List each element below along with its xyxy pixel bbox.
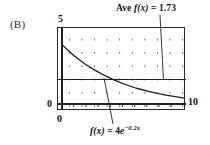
x-axis-origin-label: 0 xyxy=(57,113,62,124)
function-equals-sign: = xyxy=(105,126,115,136)
y-axis-max-label: 5 xyxy=(58,13,63,24)
exponential-decay-curve xyxy=(58,28,186,111)
x-axis-max-label: 10 xyxy=(188,96,198,107)
average-prefix-text: Ave xyxy=(116,3,134,13)
average-function-symbol: f(x) xyxy=(134,3,149,13)
average-value-annotation: Ave f(x) = 1.73 xyxy=(116,3,176,13)
panel-label: (B) xyxy=(10,18,25,30)
function-symbol: f(x) xyxy=(90,126,105,136)
function-exponent: −0.2x xyxy=(124,124,140,131)
figure-panel-b: (B) 5 0 0 10 Ave f(x) = 1.73 f(x) = 4e−0… xyxy=(0,0,210,145)
function-definition-annotation: f(x) = 4e−0.2x xyxy=(90,126,140,136)
y-axis-origin-label: 0 xyxy=(47,98,52,109)
plot-frame xyxy=(57,27,185,110)
average-value-number: 1.73 xyxy=(159,3,176,13)
average-equals-sign: = xyxy=(149,3,159,13)
